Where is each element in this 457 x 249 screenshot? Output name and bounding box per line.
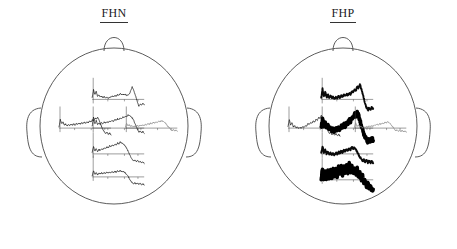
waveform-group-fhp <box>288 78 406 191</box>
erp-plot-central <box>92 107 144 134</box>
panel-fhp: FHP <box>229 0 457 249</box>
erp-plot-frontal <box>92 78 144 107</box>
head-diagram-fhn <box>0 0 228 249</box>
erp-waveform <box>321 147 373 164</box>
erp-waveform <box>125 120 177 131</box>
erp-waveform <box>321 84 373 110</box>
erp-plot-left-temporal <box>59 107 111 135</box>
erp-waveform <box>92 87 144 107</box>
erp-plot-frontal <box>321 78 373 111</box>
erp-plot-right-temporal <box>354 107 406 133</box>
left-ear-outline <box>27 108 42 157</box>
right-ear-outline <box>415 108 430 157</box>
erp-waveform <box>321 163 373 191</box>
erp-waveform <box>92 142 144 164</box>
nose-outline <box>333 38 353 52</box>
scalp-outline <box>40 48 188 204</box>
erp-plot-central <box>321 107 373 143</box>
panel-fhn: FHN <box>0 0 228 249</box>
nose-outline <box>104 38 124 52</box>
waveform-group-fhn <box>59 78 177 185</box>
head-diagram-fhp <box>229 0 457 249</box>
figure-root: FHN FHP <box>0 0 457 249</box>
right-ear-outline <box>186 108 201 157</box>
erp-plot-occipital <box>92 155 144 185</box>
erp-waveform <box>92 115 144 134</box>
erp-waveform <box>92 170 144 185</box>
left-ear-outline <box>256 108 271 157</box>
erp-waveform <box>59 117 111 135</box>
erp-plot-parietal <box>92 132 144 163</box>
